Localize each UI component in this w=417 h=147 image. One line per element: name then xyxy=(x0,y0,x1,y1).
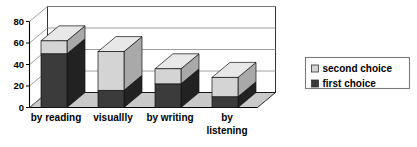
y-axis-tick-label: 60 xyxy=(13,37,24,48)
bar-column xyxy=(98,37,142,108)
axis-depth-connector xyxy=(30,7,48,22)
bar-segment-second-choice xyxy=(155,69,181,84)
x-axis-category-label: by writing xyxy=(146,112,193,123)
y-axis-tick-label: 0 xyxy=(19,102,24,113)
y-axis-tick-label: 40 xyxy=(13,59,24,70)
bar-segment-first-choice xyxy=(212,97,238,108)
bar-segment-first-choice xyxy=(155,84,181,108)
y-axis-tick-label: 80 xyxy=(13,16,24,27)
bar-segment-second-choice xyxy=(41,41,67,54)
y-axis-tick-label: 20 xyxy=(13,80,24,91)
bar-segment-first-choice xyxy=(98,90,124,107)
x-axis-category-label: by xyxy=(221,112,233,123)
legend-swatch xyxy=(312,65,319,72)
bar-chart-3d: 020406080 by readingvisualllyby writingb… xyxy=(0,0,417,147)
chart-legend: second choicefirst choice xyxy=(306,58,410,90)
x-axis-category-labels: by readingvisualllyby writingbylistening xyxy=(31,112,248,136)
plot-area xyxy=(26,7,276,108)
bar-segment-second-choice xyxy=(212,77,238,96)
x-axis-category-label: listening xyxy=(206,125,247,136)
x-axis-category-label: by reading xyxy=(31,112,82,123)
y-axis-tick-labels: 020406080 xyxy=(13,16,24,113)
bar-column xyxy=(41,26,85,108)
x-axis-category-label: visuallly xyxy=(93,112,133,123)
bar-segment-first-choice xyxy=(41,54,67,108)
bar-segment-second-choice xyxy=(98,52,124,91)
legend-label: first choice xyxy=(323,78,377,89)
legend-swatch xyxy=(312,80,319,87)
chart-container: 020406080 by readingvisualllyby writingb… xyxy=(0,0,417,147)
legend-label: second choice xyxy=(323,63,393,74)
